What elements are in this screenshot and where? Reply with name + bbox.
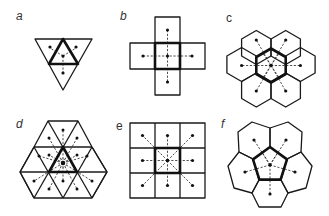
panel-f-diagram [228,122,312,207]
panel-d-diagram [20,121,107,198]
panel-e-diagram [130,123,205,198]
neighborhood-diagram: a b c d e f [0,0,329,216]
panel-c-diagram [227,31,315,108]
panel-b-diagram [130,17,205,95]
panel-a-diagram [35,39,92,90]
